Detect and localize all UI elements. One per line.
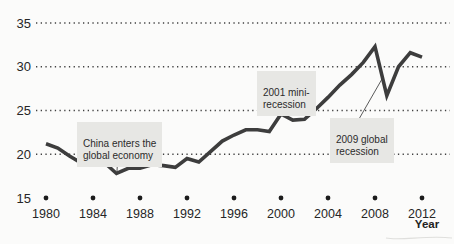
y-tick-label-35: 35 xyxy=(17,16,31,31)
y-tick-label-20: 20 xyxy=(17,147,31,162)
x-tick-label-1992: 1992 xyxy=(173,207,201,221)
x-tick-dot-1984 xyxy=(91,196,96,201)
y-tick-label-30: 30 xyxy=(17,59,31,74)
x-tick-dot-2008 xyxy=(373,196,378,201)
annotation-2009-global-recession: 2009 global recession xyxy=(330,118,394,163)
x-tick-dot-2004 xyxy=(326,196,331,201)
x-axis-title: Year xyxy=(402,218,452,230)
y-tick-label-25: 25 xyxy=(17,103,31,118)
annotation-text: 2009 global recession xyxy=(336,134,388,158)
annotation-2001-mini-recession: 2001 mini- recession xyxy=(257,71,316,116)
annotation-text: China enters the global economy xyxy=(83,138,156,162)
x-tick-dot-1988 xyxy=(138,196,143,201)
x-tick-label-1988: 1988 xyxy=(126,207,154,221)
x-tick-dot-1980 xyxy=(44,196,49,201)
x-tick-label-1980: 1980 xyxy=(32,207,60,221)
x-tick-label-1984: 1984 xyxy=(79,207,107,221)
annotation-china-enters-global-economy: China enters the global economy xyxy=(77,122,162,167)
x-tick-label-2000: 2000 xyxy=(267,207,295,221)
x-tick-label-2004: 2004 xyxy=(314,207,342,221)
x-tick-dot-1996 xyxy=(232,196,237,201)
y-tick-label-15: 15 xyxy=(17,191,31,206)
x-tick-dot-1992 xyxy=(185,196,190,201)
x-tick-label-2008: 2008 xyxy=(361,207,389,221)
x-tick-dot-2012 xyxy=(420,196,425,201)
trade-share-line-chart-figure: 1520253035198019841988199219962000200420… xyxy=(0,0,454,244)
x-tick-label-1996: 1996 xyxy=(220,207,248,221)
x-tick-dot-2000 xyxy=(279,196,284,201)
annotation-text: 2001 mini- recession xyxy=(263,87,310,111)
scan-artifact-bottom xyxy=(386,237,452,239)
annotation-leader-line-2 xyxy=(359,79,382,119)
